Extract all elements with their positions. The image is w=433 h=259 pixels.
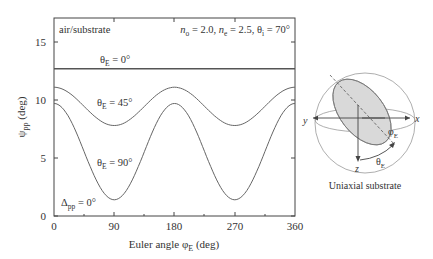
y-tick-0: 0: [41, 210, 47, 222]
series1-label: θE = 45°: [97, 97, 133, 111]
x-ticks: [84, 18, 265, 216]
uniaxial-diagram: x y z φE θE Uniaxial substrate: [302, 69, 420, 191]
diagram-theta-label: θE: [376, 156, 385, 170]
diagram-x-label: x: [414, 113, 420, 124]
y-tick-15: 15: [35, 36, 47, 48]
params-label: no = 2.0, ne = 2.5, θi = 70°: [180, 24, 290, 38]
delta-label: Δpp = 0°: [61, 197, 96, 211]
series2-label: θE = 90°: [97, 157, 133, 171]
series0-label: θE = 0°: [100, 54, 130, 68]
medium-label: air/substrate: [59, 24, 111, 35]
z-arrow-icon: [356, 156, 361, 162]
x-arrow-icon: [405, 116, 410, 121]
series-theta-90: [54, 104, 295, 200]
diagram-z-label: z: [354, 163, 359, 174]
x-tick-270: 270: [227, 220, 244, 232]
diagram-caption: Uniaxial substrate: [329, 180, 402, 191]
y-tick-10: 10: [35, 94, 47, 106]
diagram-y-label: y: [302, 115, 308, 126]
y-axis-label: ψpp (deg): [15, 96, 30, 137]
x-tick-90: 90: [109, 220, 121, 232]
chart-figure: 0 5 10 15 0 90 180 270 360 Euler angle φ…: [0, 0, 433, 259]
x-tick-0: 0: [51, 220, 57, 232]
y-tick-5: 5: [41, 152, 47, 164]
index-ellipsoid: [321, 69, 402, 156]
x-axis-label: Euler angle φE (deg): [129, 238, 220, 253]
theta-arrow-icon: [389, 142, 395, 148]
x-tick-180: 180: [166, 220, 183, 232]
series-theta-45: [54, 87, 295, 125]
x-tick-360: 360: [287, 220, 304, 232]
plot-frame: [54, 18, 295, 216]
